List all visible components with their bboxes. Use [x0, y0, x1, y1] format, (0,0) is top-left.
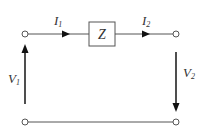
current-label-i1: I1 — [53, 13, 62, 29]
impedance-label: Z — [98, 27, 106, 42]
current-i2: I2 — [141, 13, 150, 38]
voltage-v1: V1 — [8, 44, 29, 104]
current-label-i2: I2 — [141, 13, 150, 29]
impedance-z: Z — [89, 22, 115, 46]
current-arrow-icon — [142, 31, 150, 38]
current-arrow-icon — [62, 31, 70, 38]
terminal-top-right — [173, 31, 179, 37]
arrow-up-icon — [22, 44, 29, 53]
circuit-diagram: Z I1 I2 V1 V2 — [0, 0, 206, 133]
terminal-bottom-left — [22, 119, 28, 125]
arrow-down-icon — [173, 103, 180, 112]
voltage-label-v2: V2 — [183, 65, 195, 81]
voltage-v2: V2 — [173, 52, 195, 112]
voltage-label-v1: V1 — [8, 71, 20, 87]
terminal-bottom-right — [173, 119, 179, 125]
terminal-top-left — [22, 31, 28, 37]
